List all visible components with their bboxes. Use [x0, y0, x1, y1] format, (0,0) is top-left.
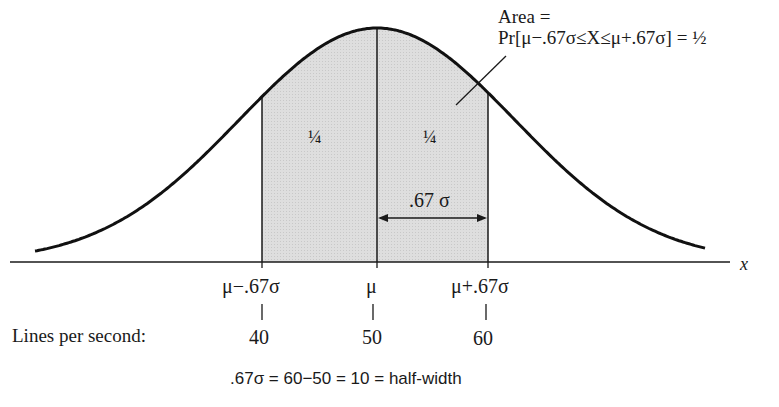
value-50: 50 — [362, 327, 382, 347]
tick-label-upper: μ+.67σ — [451, 276, 509, 296]
annotation-line1: Area = — [498, 7, 550, 26]
right-quarter-label: ¼ — [423, 128, 437, 146]
width-marker-label: .67 σ — [409, 190, 450, 210]
scale-label: Lines per second: — [12, 326, 146, 345]
half-width-equation: .67σ = 60−50 = 10 = half-width — [230, 370, 462, 387]
tick-label-lower: μ−.67σ — [222, 276, 280, 296]
tick-label-mean: μ — [366, 276, 377, 296]
left-quarter-label: ¼ — [308, 128, 322, 146]
x-axis-label: x — [740, 255, 748, 273]
value-40: 40 — [249, 327, 269, 347]
annotation-probability: Pr[μ−.67σ≤X≤μ+.67σ] = ½ — [498, 28, 706, 47]
value-60: 60 — [473, 328, 493, 348]
